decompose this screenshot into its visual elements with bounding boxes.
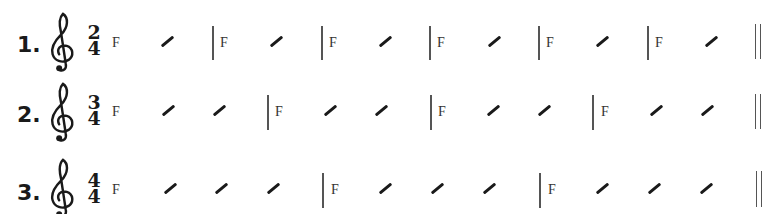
slash-beat-icon <box>596 36 609 48</box>
barline <box>322 173 324 208</box>
exercise-row-2: 2. 3 4 F F F F <box>0 80 777 150</box>
slash-beat-icon <box>431 183 444 195</box>
barline <box>267 95 269 130</box>
chord-symbol: F <box>438 104 446 120</box>
barline <box>212 26 214 60</box>
slash-beat-icon <box>213 105 226 117</box>
time-signature-bottom: 4 <box>84 110 104 126</box>
barline <box>592 95 594 130</box>
final-double-barline <box>755 94 761 129</box>
chord-symbol: F <box>329 35 337 51</box>
slash-beat-icon <box>324 105 337 117</box>
chord-symbol: F <box>546 35 554 51</box>
time-signature: 4 4 <box>84 172 104 204</box>
barline <box>321 26 323 60</box>
chord-symbol: F <box>112 104 120 120</box>
slash-beat-icon <box>538 105 551 117</box>
chord-symbol: F <box>655 35 663 51</box>
slash-beat-icon <box>596 183 609 195</box>
slash-beat-icon <box>379 36 392 48</box>
chord-symbol: F <box>601 104 609 120</box>
exercise-row-3: 3. 4 4 F F F <box>0 152 777 214</box>
barline <box>429 26 431 60</box>
chord-symbol: F <box>220 35 228 51</box>
slash-beat-icon <box>483 183 496 195</box>
chord-symbol: F <box>275 104 283 120</box>
slash-beat-icon <box>700 183 713 195</box>
barline <box>430 95 432 130</box>
chord-symbol: F <box>112 182 120 198</box>
slash-beat-icon <box>270 36 283 48</box>
slash-beat-icon <box>701 105 714 117</box>
time-signature-bottom: 4 <box>84 40 104 56</box>
final-double-barline <box>756 171 762 207</box>
exercise-number: 2. <box>17 102 41 127</box>
slash-beat-icon <box>162 105 175 117</box>
exercise-number: 1. <box>17 32 41 57</box>
slash-beat-icon <box>267 183 280 195</box>
chord-symbol: F <box>331 182 339 198</box>
barline <box>647 26 649 60</box>
treble-clef-icon <box>47 158 77 214</box>
slash-beat-icon <box>705 36 718 48</box>
time-signature-bottom: 4 <box>84 188 104 204</box>
exercise-number: 3. <box>17 180 41 205</box>
chord-symbol: F <box>548 182 556 198</box>
barline <box>539 173 541 208</box>
chord-symbol: F <box>112 35 120 51</box>
slash-beat-icon <box>487 105 500 117</box>
slash-beat-icon <box>375 105 388 117</box>
chord-symbol: F <box>437 35 445 51</box>
slash-beat-icon <box>161 36 174 48</box>
time-signature: 3 4 <box>84 94 104 126</box>
slash-beat-icon <box>488 36 501 48</box>
exercise-row-1: 1. 2 4 F F F F F F <box>0 10 777 80</box>
slash-beat-icon <box>215 183 228 195</box>
barline <box>538 26 540 60</box>
slash-beat-icon <box>164 183 177 195</box>
treble-clef-icon <box>47 12 77 74</box>
treble-clef-icon <box>47 82 77 144</box>
slash-beat-icon <box>648 183 661 195</box>
final-double-barline <box>755 24 761 59</box>
slash-beat-icon <box>650 105 663 117</box>
time-signature: 2 4 <box>84 24 104 56</box>
slash-beat-icon <box>379 183 392 195</box>
